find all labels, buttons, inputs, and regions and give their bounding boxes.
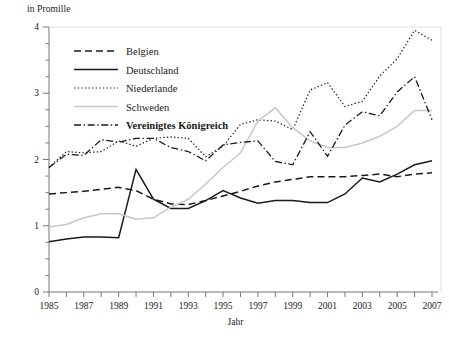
x-axis-title: Jahr (228, 317, 244, 327)
x-tick-label: 1997 (248, 301, 267, 311)
x-tick-label: 2003 (353, 301, 372, 311)
x-tick-label: 1989 (109, 301, 128, 311)
x-tick-label: 1987 (74, 301, 93, 311)
legend-label: Deutschland (126, 64, 179, 75)
series-line-deutschland (49, 161, 432, 242)
legend-label: Schweden (126, 101, 169, 112)
x-tick-label: 2007 (423, 301, 442, 311)
y-tick-label: 3 (34, 88, 39, 98)
legend-label: Belgien (126, 46, 159, 57)
series-line-niederlande (49, 30, 432, 167)
y-tick-label: 4 (34, 22, 39, 32)
x-tick-label: 1985 (40, 301, 59, 311)
x-tick-label: 1999 (283, 301, 302, 311)
x-tick-label: 1995 (214, 301, 233, 311)
y-tick-label: 0 (34, 287, 39, 297)
x-tick-label: 1991 (144, 301, 163, 311)
plot-area (0, 0, 449, 346)
series-line-schweden (49, 108, 432, 227)
x-tick-label: 2005 (388, 301, 407, 311)
y-tick-label: 2 (34, 155, 39, 165)
y-tick-label: 1 (34, 221, 39, 231)
series-line-belgien (49, 173, 432, 205)
legend-label: Niederlande (126, 83, 177, 94)
line-chart: in Promille 01234 1985198719891991199319… (0, 0, 449, 346)
x-tick-label: 2001 (318, 301, 337, 311)
legend-label: Vereinigtes Königreich (126, 120, 228, 131)
x-tick-label: 1993 (179, 301, 198, 311)
